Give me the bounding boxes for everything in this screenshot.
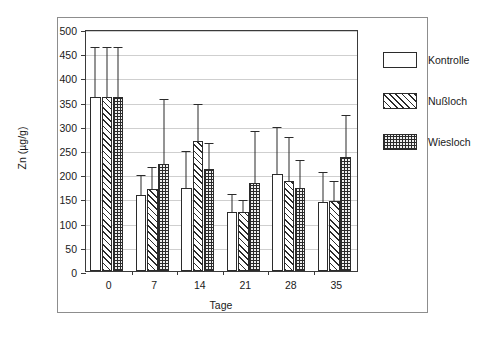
error-bar xyxy=(288,138,289,181)
error-bar-cap xyxy=(284,137,293,138)
figure: Zn (µg/g) Tage 0501001502002503003504004… xyxy=(0,0,486,350)
error-bar-cap xyxy=(193,104,202,105)
y-axis-tick xyxy=(81,249,86,250)
error-bar-cap xyxy=(91,47,100,48)
error-bar-cap xyxy=(341,115,350,116)
x-axis-title: Tage xyxy=(210,299,233,311)
y-axis-tick-label: 300 xyxy=(59,123,77,134)
error-bar xyxy=(243,201,244,212)
error-bar xyxy=(209,144,210,169)
bar xyxy=(272,174,283,271)
checker-swatch xyxy=(383,134,417,150)
bar xyxy=(249,183,260,271)
y-axis-tick xyxy=(81,152,86,153)
error-bar xyxy=(186,152,187,187)
error-bar-cap xyxy=(318,172,327,173)
error-bar xyxy=(231,195,232,212)
y-axis-tick xyxy=(81,104,86,105)
error-bar-cap xyxy=(114,47,123,48)
x-axis-tick-label: 21 xyxy=(239,280,251,291)
error-bar xyxy=(140,176,141,195)
gridline xyxy=(86,152,357,153)
error-bar xyxy=(322,173,323,203)
y-axis-tick-label: 500 xyxy=(59,26,77,37)
gridline xyxy=(86,104,357,105)
error-bar xyxy=(106,48,107,96)
bar xyxy=(284,181,295,271)
error-bar xyxy=(300,161,301,188)
bar xyxy=(295,188,306,271)
bar xyxy=(181,188,192,271)
gridline xyxy=(86,31,357,32)
error-bar-cap xyxy=(136,175,145,176)
gridline xyxy=(86,176,357,177)
bar xyxy=(136,195,147,271)
bar xyxy=(193,141,204,271)
bar xyxy=(102,97,113,271)
y-axis-tick xyxy=(81,176,86,177)
error-bar xyxy=(277,128,278,173)
error-bar xyxy=(345,116,346,158)
gridline xyxy=(86,55,357,56)
y-axis-tick-label: 0 xyxy=(71,268,77,279)
bar xyxy=(113,97,124,271)
error-bar-cap xyxy=(296,160,305,161)
bar xyxy=(329,201,340,271)
error-bar xyxy=(118,48,119,96)
white-swatch xyxy=(383,52,417,68)
x-axis-tick-label: 14 xyxy=(194,280,206,291)
gridline xyxy=(86,249,357,250)
legend-item: Wiesloch xyxy=(383,134,471,150)
error-bar-cap xyxy=(205,143,214,144)
legend-item-label: Wiesloch xyxy=(428,136,471,148)
error-bar xyxy=(197,105,198,141)
hatch-swatch xyxy=(383,93,417,109)
x-axis-tick-label: 28 xyxy=(285,280,297,291)
y-axis-title: Zn (µg/g) xyxy=(16,127,28,170)
bar xyxy=(227,212,238,271)
error-bar xyxy=(152,168,153,188)
error-bar-cap xyxy=(227,194,236,195)
bar xyxy=(238,212,249,271)
bar xyxy=(90,97,101,271)
y-axis-tick-label: 100 xyxy=(59,219,77,230)
gridline xyxy=(86,225,357,226)
bar xyxy=(204,169,215,271)
bar xyxy=(318,202,329,271)
x-axis-separator xyxy=(132,271,133,275)
y-axis-tick xyxy=(81,128,86,129)
bar xyxy=(147,189,158,271)
x-axis-tick-label: 35 xyxy=(330,280,342,291)
error-bar xyxy=(95,48,96,96)
x-axis-separator xyxy=(314,271,315,275)
bar xyxy=(158,164,169,271)
error-bar-cap xyxy=(159,99,168,100)
error-bar-cap xyxy=(148,167,157,168)
y-axis-tick xyxy=(81,200,86,201)
legend-item: Nußloch xyxy=(383,93,467,109)
plot-area: 050100150200250300350400450500 071421283… xyxy=(85,30,358,272)
error-bar-cap xyxy=(250,131,259,132)
bar xyxy=(340,157,351,271)
error-bar-cap xyxy=(273,127,282,128)
error-bar xyxy=(163,100,164,164)
legend-item: Kontrolle xyxy=(383,52,469,68)
gridline xyxy=(86,79,357,80)
y-axis-tick-label: 250 xyxy=(59,147,77,158)
legend-item-label: Kontrolle xyxy=(428,54,469,66)
y-axis-tick-label: 200 xyxy=(59,171,77,182)
y-axis-tick-label: 450 xyxy=(59,50,77,61)
y-axis-tick xyxy=(81,31,86,32)
error-bar-cap xyxy=(102,47,111,48)
error-bar xyxy=(334,182,335,201)
error-bar-cap xyxy=(330,181,339,182)
error-bar xyxy=(254,132,255,184)
x-axis-separator xyxy=(223,271,224,275)
y-axis-tick xyxy=(81,79,86,80)
y-axis-tick-label: 150 xyxy=(59,195,77,206)
y-axis-tick-label: 400 xyxy=(59,74,77,85)
gridline xyxy=(86,128,357,129)
y-axis-tick xyxy=(81,273,86,274)
y-axis-tick xyxy=(81,225,86,226)
legend-item-label: Nußloch xyxy=(428,95,467,107)
